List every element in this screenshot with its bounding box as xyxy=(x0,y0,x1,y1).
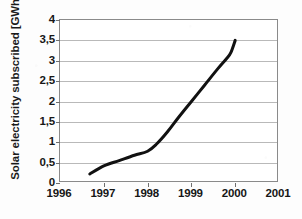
y-tick-label: 2,5 xyxy=(40,74,55,86)
chart-figure: Solar electricity subscribed [GWh] 00,51… xyxy=(0,0,302,219)
y-tick-label: 0,5 xyxy=(40,156,55,168)
x-tick-label: 1997 xyxy=(90,187,115,199)
x-tick-label: 1999 xyxy=(178,187,203,199)
x-axis-tick-labels: 199619971998199920002001 xyxy=(0,187,302,205)
x-tick-label: 2000 xyxy=(222,187,247,199)
y-tick-label: 3 xyxy=(49,54,55,66)
y-axis-title: Solar electricity subscribed [GWh] xyxy=(4,0,26,197)
y-tick-label: 2 xyxy=(49,95,55,107)
series-path xyxy=(90,40,235,174)
y-tick-label: 1,5 xyxy=(40,115,55,127)
x-tick-label: 1996 xyxy=(47,187,72,199)
y-tick-label: 4 xyxy=(49,13,55,25)
y-tick-label: 1 xyxy=(49,135,55,147)
x-tick-label: 2001 xyxy=(266,187,291,199)
series-line-solar-electricity-subscribed xyxy=(60,20,279,183)
x-tick-label: 1998 xyxy=(134,187,159,199)
y-tick-mark xyxy=(56,183,60,184)
plot-area xyxy=(59,19,278,182)
y-tick-label: 3,5 xyxy=(40,33,55,45)
